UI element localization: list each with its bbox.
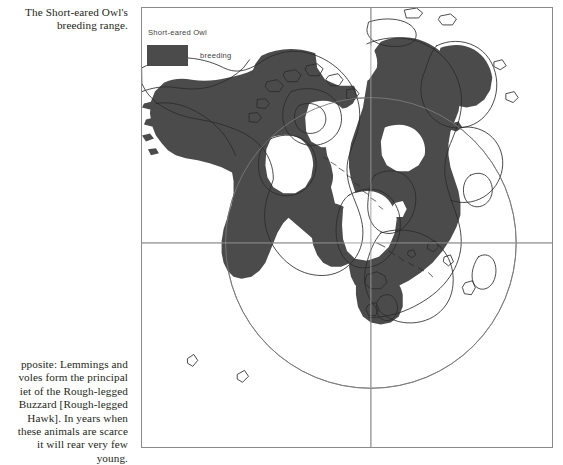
caption-bottom: pposite: Lemmings and voles form the pri…	[0, 358, 128, 465]
caption-top-line-2: breeding range.	[0, 19, 128, 32]
caption-bottom-line-2: voles form the principal	[0, 371, 128, 384]
caption-bottom-line-7: it will rear very few	[0, 438, 128, 451]
caption-bottom-line-4: Buzzard [Rough-legged	[0, 398, 128, 411]
map-legend: Short-eared Owl breeding	[147, 28, 232, 66]
caption-bottom-line-8: young.	[0, 452, 128, 465]
legend-title: Short-eared Owl	[148, 28, 232, 37]
caption-top: The Short-eared Owl's breeding range.	[0, 6, 128, 33]
caption-bottom-line-1: pposite: Lemmings and	[0, 358, 128, 371]
caption-bottom-line-5: Hawk]. In years when	[0, 412, 128, 425]
caption-bottom-line-6: these animals are scarce	[0, 425, 128, 438]
legend-swatch-label: breeding	[200, 51, 232, 60]
legend-row-breeding: breeding	[147, 45, 232, 66]
caption-bottom-line-3: iet of the Rough-legged	[0, 385, 128, 398]
caption-top-line-1: The Short-eared Owl's	[0, 6, 128, 19]
map-frame: Short-eared Owl breeding	[141, 7, 553, 448]
polar-projection-map	[142, 8, 552, 447]
legend-swatch-breeding	[147, 45, 188, 66]
